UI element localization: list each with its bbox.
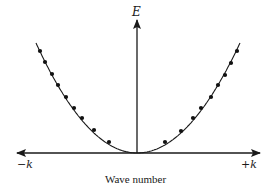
data-point (223, 73, 227, 77)
data-point (163, 140, 167, 144)
dispersion-diagram: E −k +k Wave number (0, 0, 271, 193)
data-point (72, 106, 76, 110)
data-point (235, 49, 239, 53)
data-point (80, 116, 84, 120)
energy-axis-label: E (132, 5, 141, 19)
data-point (216, 83, 220, 87)
data-point (92, 128, 96, 132)
data-point (191, 116, 195, 120)
wave-number-title: Wave number (0, 173, 271, 185)
data-points (38, 49, 239, 144)
diagram-canvas (0, 0, 271, 193)
data-point (38, 49, 42, 53)
data-point (199, 106, 203, 110)
data-point (64, 95, 68, 99)
data-point (179, 129, 183, 133)
data-point (50, 72, 54, 76)
negative-k-label: −k (17, 158, 33, 171)
positive-k-label: +k (241, 158, 257, 171)
data-point (43, 60, 47, 64)
data-point (209, 95, 213, 99)
data-point (229, 61, 233, 65)
data-point (107, 140, 111, 144)
data-point (56, 83, 60, 87)
